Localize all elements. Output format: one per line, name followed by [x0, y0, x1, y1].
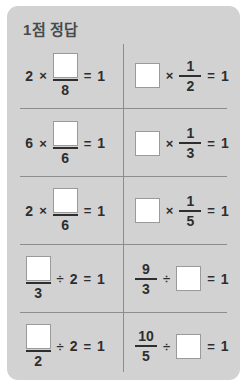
denominator: 3 — [184, 145, 197, 161]
equals-sign: = — [206, 204, 216, 217]
fraction-bar — [53, 147, 78, 149]
result-value: 1 — [221, 204, 229, 218]
denominator: 5 — [184, 213, 197, 229]
divide-operator: ÷ — [162, 272, 171, 285]
equals-sign: = — [83, 340, 93, 353]
result-value: 1 — [221, 69, 229, 83]
problem-cell-r3c2: × 1 5 = 1 — [124, 177, 241, 245]
fraction: 9 3 — [135, 261, 157, 297]
divisor: 2 — [70, 272, 78, 286]
equals-sign: = — [206, 137, 216, 150]
fraction: 3 — [26, 256, 51, 301]
equation: 2 × 8 = 1 — [25, 53, 105, 98]
fraction-bar — [26, 350, 51, 352]
equation: × 1 3 = 1 — [135, 125, 229, 161]
answer-input-box[interactable] — [26, 324, 51, 349]
denominator: 3 — [139, 281, 152, 297]
divide-operator: ÷ — [56, 272, 65, 285]
divisor: 2 — [70, 339, 78, 353]
answer-input-box[interactable] — [53, 121, 78, 146]
fraction-bar — [26, 282, 51, 284]
multiply-operator: × — [38, 137, 48, 150]
fraction: 10 5 — [135, 328, 157, 364]
answer-input-box[interactable] — [135, 131, 160, 156]
answer-input-box[interactable] — [26, 256, 51, 281]
multiply-operator: × — [38, 69, 48, 82]
equals-sign: = — [206, 340, 216, 353]
fraction-bar — [179, 210, 201, 212]
denominator: 6 — [59, 150, 72, 166]
problem-cell-r4c2: 9 3 ÷ = 1 — [124, 245, 241, 313]
result-value: 1 — [221, 339, 229, 353]
fraction: 6 — [53, 121, 78, 166]
fraction: 6 — [53, 188, 78, 233]
numerator: 10 — [138, 328, 154, 344]
denominator: 2 — [184, 78, 197, 94]
fraction: 2 — [26, 324, 51, 369]
fraction: 1 5 — [179, 193, 201, 229]
answer-input-box[interactable] — [53, 53, 78, 78]
denominator: 5 — [139, 348, 152, 364]
numerator: 1 — [184, 125, 197, 141]
equation: 10 5 ÷ = 1 — [135, 328, 229, 364]
answer-input-box[interactable] — [135, 63, 160, 88]
result-value: 1 — [221, 272, 229, 286]
equation: 9 3 ÷ = 1 — [135, 261, 229, 297]
denominator: 2 — [32, 353, 45, 369]
equation: 6 × 6 = 1 — [25, 121, 105, 166]
problem-cell-r5c2: 10 5 ÷ = 1 — [124, 312, 241, 380]
multiplier: 6 — [25, 136, 33, 150]
equation: × 1 2 = 1 — [135, 58, 229, 94]
divide-operator: ÷ — [162, 340, 171, 353]
result-value: 1 — [97, 204, 105, 218]
answer-input-box[interactable] — [53, 188, 78, 213]
equation: 2 ÷ 2 = 1 — [26, 324, 105, 369]
result-value: 1 — [97, 136, 105, 150]
multiplier: 2 — [25, 204, 33, 218]
problem-cell-r3c1: 2 × 6 = 1 — [7, 177, 124, 245]
numerator: 1 — [184, 193, 197, 209]
multiply-operator: × — [38, 204, 48, 217]
fraction-bar — [53, 214, 78, 216]
fraction: 1 3 — [179, 125, 201, 161]
page-title: 1점 정답 — [23, 18, 79, 39]
fraction-bar — [135, 345, 157, 347]
equation: 3 ÷ 2 = 1 — [26, 256, 105, 301]
problem-cell-r5c1: 2 ÷ 2 = 1 — [7, 312, 124, 380]
equals-sign: = — [83, 69, 93, 82]
problem-cell-r4c1: 3 ÷ 2 = 1 — [7, 245, 124, 313]
fraction-bar — [53, 79, 78, 81]
problem-cell-r2c2: × 1 3 = 1 — [124, 110, 241, 178]
multiply-operator: × — [165, 204, 175, 217]
problem-cell-r2c1: 6 × 6 = 1 — [7, 110, 124, 178]
equals-sign: = — [83, 272, 93, 285]
denominator: 6 — [59, 217, 72, 233]
result-value: 1 — [221, 136, 229, 150]
answer-input-box[interactable] — [176, 266, 201, 291]
fraction: 1 2 — [179, 58, 201, 94]
numerator: 9 — [139, 261, 152, 277]
worksheet-card: 1점 정답 2 × 8 = 1 × — [7, 6, 240, 380]
equals-sign: = — [83, 204, 93, 217]
equation: 2 × 6 = 1 — [25, 188, 105, 233]
result-value: 1 — [97, 272, 105, 286]
numerator: 1 — [184, 58, 197, 74]
answer-input-box[interactable] — [176, 334, 201, 359]
problem-cell-r1c2: × 1 2 = 1 — [124, 42, 241, 110]
problem-cell-r1c1: 2 × 8 = 1 — [7, 42, 124, 110]
answer-input-box[interactable] — [135, 198, 160, 223]
denominator: 8 — [59, 82, 72, 98]
denominator: 3 — [32, 285, 45, 301]
fraction: 8 — [53, 53, 78, 98]
divide-operator: ÷ — [56, 340, 65, 353]
multiply-operator: × — [165, 69, 175, 82]
equals-sign: = — [206, 69, 216, 82]
fraction-bar — [135, 278, 157, 280]
equals-sign: = — [206, 272, 216, 285]
multiplier: 2 — [25, 69, 33, 83]
fraction-bar — [179, 142, 201, 144]
multiply-operator: × — [165, 137, 175, 150]
result-value: 1 — [97, 339, 105, 353]
problem-grid: 2 × 8 = 1 × 1 2 = — [7, 42, 240, 380]
fraction-bar — [179, 75, 201, 77]
